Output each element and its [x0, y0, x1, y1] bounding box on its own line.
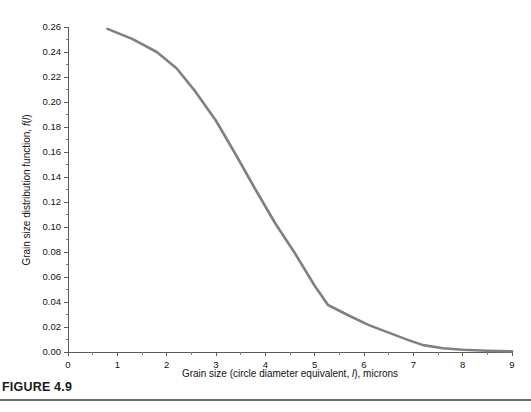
- x-tick-label: 7: [411, 359, 416, 370]
- y-tick-label: 0.04: [43, 296, 62, 307]
- y-tick-label: 0.08: [43, 246, 62, 257]
- y-tick-label: 0.12: [43, 196, 62, 207]
- y-tick-label: 0.16: [43, 146, 62, 157]
- y-tick-label: 0.24: [43, 46, 62, 57]
- x-tick-marks: [68, 352, 512, 356]
- y-tick-label: 0.00: [43, 346, 62, 357]
- y-tick-label: 0.18: [43, 121, 62, 132]
- y-tick-label: 0.20: [43, 96, 62, 107]
- chart-plot: 0.000.020.040.060.080.100.120.140.160.18…: [0, 0, 531, 380]
- y-tick-labels: 0.000.020.040.060.080.100.120.140.160.18…: [43, 21, 62, 357]
- x-tick-label: 1: [115, 359, 120, 370]
- y-tick-label: 0.02: [43, 321, 62, 332]
- data-series-line: [107, 29, 512, 352]
- x-tick-label: 2: [164, 359, 169, 370]
- y-tick-marks: [64, 27, 68, 352]
- y-tick-label: 0.10: [43, 221, 62, 232]
- y-tick-label: 0.22: [43, 71, 62, 82]
- figure-caption: FIGURE 4.9: [0, 380, 531, 394]
- x-tick-label: 0: [65, 359, 70, 370]
- x-tick-label: 8: [460, 359, 465, 370]
- y-axis-title: Grain size distribution function, f(l): [21, 114, 32, 265]
- x-axis-title: Grain size (circle diameter equivalent, …: [182, 368, 398, 379]
- x-tick-label: 9: [509, 359, 514, 370]
- y-tick-label: 0.14: [43, 171, 62, 182]
- caption-divider: [0, 399, 531, 401]
- y-tick-label: 0.26: [43, 21, 62, 32]
- figure-container: 0.000.020.040.060.080.100.120.140.160.18…: [0, 0, 531, 412]
- caption-block: FIGURE 4.9: [0, 380, 531, 401]
- y-tick-label: 0.06: [43, 271, 62, 282]
